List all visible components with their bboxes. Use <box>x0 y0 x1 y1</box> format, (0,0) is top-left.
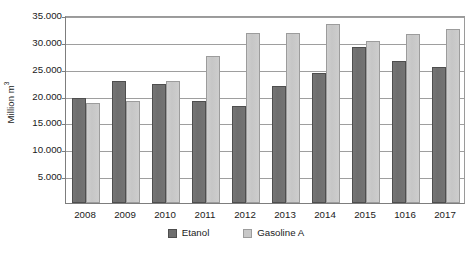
legend-item-gasoline-a: Gasoline A <box>243 228 304 238</box>
legend-label-etanol: Etanol <box>182 228 209 238</box>
x-axis-tick-label: 2013 <box>265 208 305 221</box>
bar-etanol-2014 <box>312 73 326 204</box>
bar-etanol-2012 <box>232 106 246 203</box>
bar-gasoline-a-2015 <box>366 41 380 203</box>
bar-gasoline-a-2008 <box>86 103 100 203</box>
bar-gasoline-a-2011 <box>206 56 220 203</box>
y-axis-tick-mark <box>62 98 66 99</box>
y-axis-tick-label: 5.000 <box>18 172 62 182</box>
x-axis-tick-label: 2011 <box>185 208 225 221</box>
y-axis-tick-label: 25.000 <box>18 65 62 75</box>
y-axis-tick-mark <box>62 178 66 179</box>
y-axis-tick-label: 15.000 <box>18 118 62 128</box>
chart-legend: Etanol Gasoline A <box>0 228 472 238</box>
x-axis-tick-label: 2017 <box>425 208 465 221</box>
plot-area <box>65 16 465 204</box>
bar-etanol-2008 <box>72 98 86 203</box>
y-axis-tick-labels: 35.00030.00025.00020.00015.00010.0005.00… <box>18 0 62 210</box>
bar-etanol-2010 <box>152 84 166 203</box>
y-axis-tick-mark <box>62 124 66 125</box>
bar-etanol-2015 <box>352 47 366 203</box>
x-axis-tick-labels: 2008200920102011201220132014201510162017 <box>65 208 465 224</box>
y-axis-title-text: Million m <box>5 85 16 123</box>
bar-gasoline-a-2014 <box>326 24 340 203</box>
y-axis-tick-mark <box>62 44 66 45</box>
y-axis-tick-label: 35.000 <box>18 11 62 21</box>
bar-gasoline-a-1016 <box>406 34 420 203</box>
y-axis-tick-label: 10.000 <box>18 145 62 155</box>
x-axis-tick-label: 2014 <box>305 208 345 221</box>
x-axis-tick-label: 2015 <box>345 208 385 221</box>
bar-gasoline-a-2009 <box>126 101 140 203</box>
y-axis-tick-label: 20.000 <box>18 92 62 102</box>
y-axis-tick-label: 30.000 <box>18 38 62 48</box>
bar-gasoline-a-2017 <box>446 29 460 203</box>
bar-gasoline-a-2012 <box>246 33 260 203</box>
x-axis-tick-label: 2012 <box>225 208 265 221</box>
y-axis-tick-mark <box>62 71 66 72</box>
legend-swatch-etanol-icon <box>168 229 177 238</box>
bar-gasoline-a-2013 <box>286 33 300 203</box>
legend-item-etanol: Etanol <box>168 228 209 238</box>
y-axis-title: Million m3 <box>0 0 20 205</box>
bar-etanol-2009 <box>112 81 126 203</box>
bars-layer <box>66 17 464 203</box>
y-axis-title-exponent: 3 <box>3 81 10 85</box>
x-axis-tick-label: 2009 <box>105 208 145 221</box>
legend-swatch-gasoline-a-icon <box>243 229 252 238</box>
bar-etanol-2013 <box>272 86 286 203</box>
y-axis-tick-mark <box>62 151 66 152</box>
legend-label-gasoline-a: Gasoline A <box>257 228 304 238</box>
bar-etanol-1016 <box>392 61 406 203</box>
bar-gasoline-a-2010 <box>166 81 180 204</box>
x-axis-tick-label: 2010 <box>145 208 185 221</box>
bar-etanol-2011 <box>192 101 206 203</box>
bar-etanol-2017 <box>432 67 446 203</box>
bar-chart-figure: Million m3 35.00030.00025.00020.00015.00… <box>0 0 472 257</box>
x-axis-tick-label: 1016 <box>385 208 425 221</box>
x-axis-tick-label: 2008 <box>65 208 105 221</box>
y-axis-tick-mark <box>62 17 66 18</box>
